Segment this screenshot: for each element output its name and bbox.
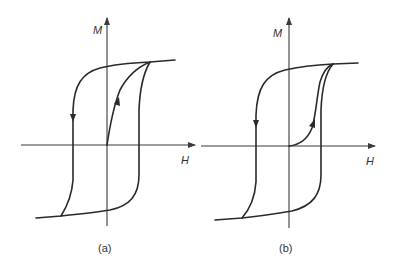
ascending-branch-a	[61, 62, 150, 216]
arrow-up-icon-b	[309, 119, 315, 128]
arrow-down-icon-b	[253, 120, 259, 128]
m-axis-label-a: M	[93, 24, 103, 36]
h-axis-label-a: H	[181, 154, 189, 166]
panel-b: M H (b)	[201, 18, 375, 254]
m-axis-label-b: M	[273, 27, 283, 39]
panel-caption-b: (b)	[279, 242, 292, 254]
initial-curve-a	[107, 62, 150, 145]
panel-a: M H (a)	[21, 18, 195, 254]
panel-caption-a: (a)	[98, 242, 111, 254]
hysteresis-figure: M H (a) M H (b)	[0, 0, 393, 268]
arrow-down-icon-a	[70, 114, 76, 122]
descending-branch-a	[36, 60, 175, 218]
descending-branch-b	[215, 63, 358, 220]
h-axis-label-b: H	[366, 155, 374, 167]
